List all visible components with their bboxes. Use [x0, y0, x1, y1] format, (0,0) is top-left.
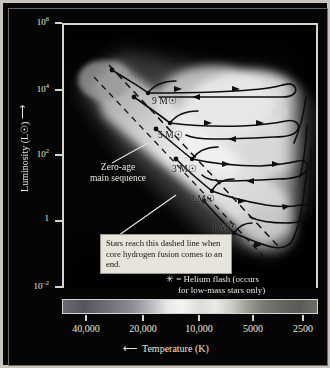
y-label-1e6: 106 — [37, 16, 49, 27]
y-axis-title-text: Luminosity (L☉) — [19, 122, 30, 192]
y-label-1em2: 10–2 — [34, 280, 50, 291]
helium-flash-marker-1: ✳ — [270, 107, 279, 118]
y-tick-1 — [55, 220, 62, 222]
helium-flash-marker-2: ✳ — [280, 107, 289, 118]
mass-label-9msun: 9 M☉ — [152, 95, 177, 106]
y-axis-arrow-icon: ⟶ — [17, 105, 28, 119]
figure-paper: 9 M☉ 5 M☉ 3 M☉ 2 M☉ 1 M☉ Zero-age main s… — [0, 0, 330, 368]
mass-label-1msun: 1 M☉ — [212, 221, 237, 232]
y-tick-1e2 — [55, 154, 62, 156]
y-label-1e2: 102 — [37, 148, 49, 159]
x-label-20000: 20,000 — [129, 323, 157, 334]
x-label-5000: 5000 — [243, 323, 263, 334]
mass-label-5msun: 5 M☉ — [158, 129, 183, 140]
helium-flash-note: ✳ = Helium flash (occurs for low-mass st… — [166, 274, 318, 296]
y-tick-1e4 — [55, 89, 62, 91]
x-tick-20000 — [142, 315, 144, 321]
mass-label-2msun: 2 M☉ — [190, 193, 215, 204]
y-axis-title: Luminosity (L☉) ⟶ — [19, 84, 30, 214]
upper-left-tip-glow — [78, 60, 130, 100]
y-tick-1em2 — [55, 286, 62, 288]
y-label-1: 1 — [45, 214, 50, 223]
zams-label-line2: main sequence — [90, 173, 146, 183]
x-axis-title-text: Temperature (K) — [142, 343, 209, 354]
x-tick-2500 — [302, 315, 304, 321]
helium-flash-note-line1: ✳ = Helium flash (occurs — [166, 274, 259, 284]
temperature-color-bar — [62, 299, 318, 314]
zams-label-line1: Zero-age — [101, 162, 135, 172]
x-axis-arrow-icon: ⟵ — [123, 343, 137, 354]
y-label-1e4: 104 — [37, 83, 49, 94]
hr-diagram-figure: 9 M☉ 5 M☉ 3 M☉ 2 M☉ 1 M☉ Zero-age main s… — [0, 0, 330, 368]
zams-label: Zero-age main sequence — [72, 162, 164, 184]
helium-flash-note-line2: for low-mass stars only) — [166, 285, 318, 296]
x-axis-title: ⟵ Temperature (K) — [123, 343, 209, 354]
mass-label-3msun: 3 M☉ — [172, 163, 197, 174]
x-label-40000: 40,000 — [72, 323, 100, 334]
callout-box: Stars reach this dashed line when core h… — [100, 234, 232, 274]
x-label-2500: 2500 — [293, 323, 313, 334]
y-tick-1e6 — [55, 22, 62, 24]
x-tick-40000 — [85, 315, 87, 321]
x-tick-10000 — [198, 315, 200, 321]
x-tick-5000 — [252, 315, 254, 321]
x-label-10000: 10,000 — [185, 323, 213, 334]
